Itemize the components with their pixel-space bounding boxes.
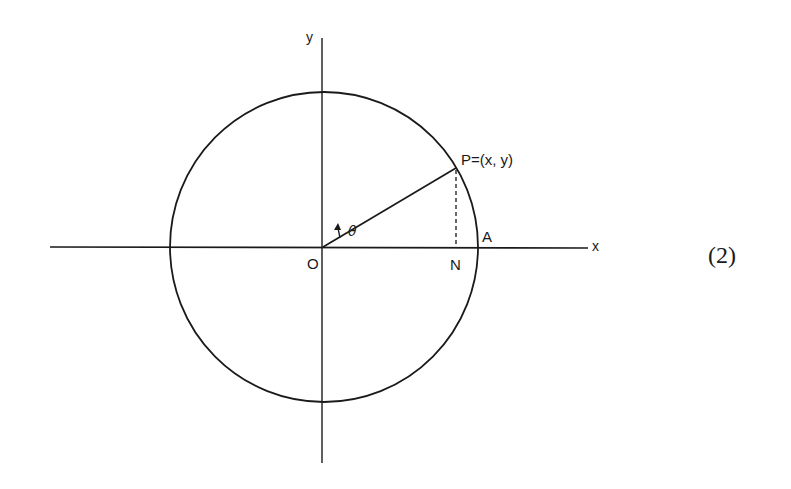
diagram-drawing bbox=[0, 0, 791, 489]
angle-arrow-icon bbox=[334, 223, 341, 238]
radius-op bbox=[323, 168, 456, 247]
x-axis-line bbox=[50, 247, 588, 248]
angle-theta-label: θ bbox=[348, 224, 357, 238]
point-p-label: P=(x, y) bbox=[461, 152, 513, 167]
equation-number: (2) bbox=[708, 243, 736, 267]
y-axis-label: y bbox=[306, 30, 313, 44]
point-a-label: A bbox=[482, 229, 492, 244]
point-n-label: N bbox=[450, 257, 461, 272]
circle-diagram: y x O P=(x, y) N A θ (2) bbox=[0, 0, 791, 489]
x-axis-label: x bbox=[592, 239, 599, 253]
origin-label: O bbox=[307, 256, 319, 271]
